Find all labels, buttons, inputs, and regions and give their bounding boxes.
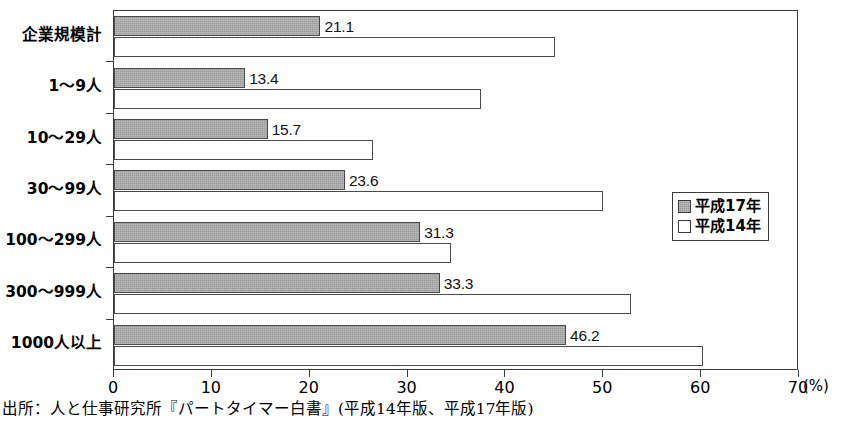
bar-gray bbox=[114, 170, 345, 190]
y-axis-label: 10〜29人 bbox=[0, 131, 102, 147]
bar-value-label: 33.3 bbox=[444, 276, 473, 292]
legend-swatch-white-icon bbox=[678, 220, 691, 233]
x-axis-tick bbox=[602, 370, 603, 377]
bar-value-label: 46.2 bbox=[570, 328, 599, 344]
x-axis-tick-label: 10 bbox=[201, 380, 221, 396]
x-axis-tick-label: 0 bbox=[108, 380, 118, 396]
x-axis-tick-label: 50 bbox=[592, 380, 612, 396]
bar-white bbox=[114, 37, 555, 57]
x-axis-tick bbox=[700, 370, 701, 377]
x-axis-unit-label: (%) bbox=[803, 379, 829, 394]
y-axis-label: 1〜9人 bbox=[0, 79, 102, 95]
bar-white bbox=[114, 243, 451, 263]
y-axis-tick bbox=[106, 164, 113, 165]
bar-value-label: 31.3 bbox=[424, 225, 453, 241]
y-axis-label: 30〜99人 bbox=[0, 182, 102, 198]
bar-white bbox=[114, 294, 631, 314]
x-axis-tick-label: 40 bbox=[494, 380, 514, 396]
x-axis-tick bbox=[504, 370, 505, 377]
bar-gray bbox=[114, 16, 320, 36]
y-axis-label: 300〜999人 bbox=[0, 285, 102, 301]
x-axis-tick bbox=[407, 370, 408, 377]
legend-item-heisei-14: 平成14年 bbox=[678, 216, 761, 236]
y-axis-label: 企業規模計 bbox=[0, 28, 102, 44]
legend-item-heisei-17: 平成17年 bbox=[678, 196, 761, 216]
y-axis-label: 1000人以上 bbox=[0, 336, 102, 352]
bar-value-label: 21.1 bbox=[324, 19, 353, 35]
x-axis-tick-label: 30 bbox=[396, 380, 416, 396]
bar-group: 13.4 bbox=[114, 62, 797, 113]
legend: 平成17年 平成14年 bbox=[672, 192, 769, 241]
x-axis-tick bbox=[113, 370, 114, 377]
x-axis-tick-label: 20 bbox=[299, 380, 319, 396]
bar-white bbox=[114, 140, 373, 160]
legend-label-heisei-17: 平成17年 bbox=[695, 199, 761, 214]
bar-white bbox=[114, 191, 603, 211]
x-axis-tick bbox=[211, 370, 212, 377]
bar-group: 33.3 bbox=[114, 268, 797, 319]
plot-area: 21.113.415.723.631.333.346.2 bbox=[113, 10, 798, 370]
bar-value-label: 13.4 bbox=[249, 71, 278, 87]
y-axis-category-labels: 企業規模計1〜9人10〜29人30〜99人100〜299人300〜999人100… bbox=[0, 10, 108, 370]
bar-group: 46.2 bbox=[114, 320, 797, 371]
bar-gray bbox=[114, 68, 245, 88]
bar-value-label: 23.6 bbox=[349, 173, 378, 189]
bar-white bbox=[114, 346, 703, 366]
source-note: 出所：人と仕事研究所『パートタイマー白書』(平成14年版、平成17年版) bbox=[2, 401, 534, 419]
bar-value-label: 15.7 bbox=[272, 122, 301, 138]
x-axis-tick-label: 60 bbox=[690, 380, 710, 396]
x-axis-tick bbox=[798, 370, 799, 377]
y-axis-tick bbox=[106, 267, 113, 268]
bar-gray bbox=[114, 325, 566, 345]
bar-chart-figure: 企業規模計1〜9人10〜29人30〜99人100〜299人300〜999人100… bbox=[0, 0, 850, 425]
y-axis-tick bbox=[106, 113, 113, 114]
bar-group: 15.7 bbox=[114, 114, 797, 165]
y-axis-label: 100〜299人 bbox=[0, 233, 102, 249]
bar-gray bbox=[114, 222, 420, 242]
bar-gray bbox=[114, 119, 268, 139]
y-axis-tick bbox=[106, 216, 113, 217]
y-axis-tick bbox=[106, 319, 113, 320]
legend-label-heisei-14: 平成14年 bbox=[695, 219, 761, 234]
y-axis-tick bbox=[106, 61, 113, 62]
bar-group: 21.1 bbox=[114, 11, 797, 62]
bar-gray bbox=[114, 273, 440, 293]
legend-swatch-gray-icon bbox=[678, 200, 691, 213]
bar-white bbox=[114, 89, 481, 109]
x-axis-tick bbox=[309, 370, 310, 377]
